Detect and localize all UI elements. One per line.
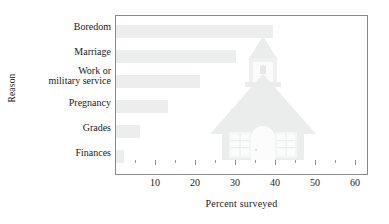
bar-finances — [116, 150, 124, 163]
x-tick-major-30 — [235, 160, 236, 165]
bar-chart: Reason Boredom Marriage Work or military… — [0, 0, 389, 224]
x-tick-label-50: 50 — [300, 177, 330, 188]
x-tick-label-60: 60 — [340, 177, 370, 188]
x-axis-title: Percent surveyed — [115, 198, 368, 209]
x-tick-label-30: 30 — [220, 177, 250, 188]
x-tick-major-50 — [315, 160, 316, 165]
x-tick-label-20: 20 — [180, 177, 210, 188]
x-tick-major-20 — [195, 160, 196, 165]
bar-marriage — [116, 50, 236, 63]
x-tick-major-40 — [275, 160, 276, 165]
bar-boredom — [116, 25, 273, 38]
category-label-marriage: Marriage — [28, 47, 111, 58]
x-tick-minor-55 — [335, 160, 336, 163]
y-axis-title: Reason — [7, 58, 17, 118]
bar-pregnancy — [116, 100, 168, 113]
y-axis-category-labels: Boredom Marriage Work or military servic… — [28, 15, 111, 175]
bar-grades — [116, 125, 140, 138]
x-tick-minor-45 — [295, 160, 296, 163]
x-tick-minor-5 — [135, 160, 136, 163]
plot-area — [115, 15, 368, 175]
x-tick-minor-35 — [255, 160, 256, 163]
category-label-work-military-line2: military service — [28, 76, 111, 86]
bar-work-military — [116, 75, 200, 88]
x-tick-minor-15 — [175, 160, 176, 163]
x-tick-label-10: 10 — [140, 177, 170, 188]
category-label-finances: Finances — [28, 148, 111, 159]
category-label-boredom: Boredom — [28, 22, 111, 33]
plot-inner — [116, 16, 367, 174]
x-tick-minor-25 — [215, 160, 216, 163]
x-tick-major-60 — [355, 160, 356, 165]
x-tick-major-10 — [155, 160, 156, 165]
x-tick-label-40: 40 — [260, 177, 290, 188]
category-label-pregnancy: Pregnancy — [28, 98, 111, 109]
category-label-grades: Grades — [28, 123, 111, 134]
